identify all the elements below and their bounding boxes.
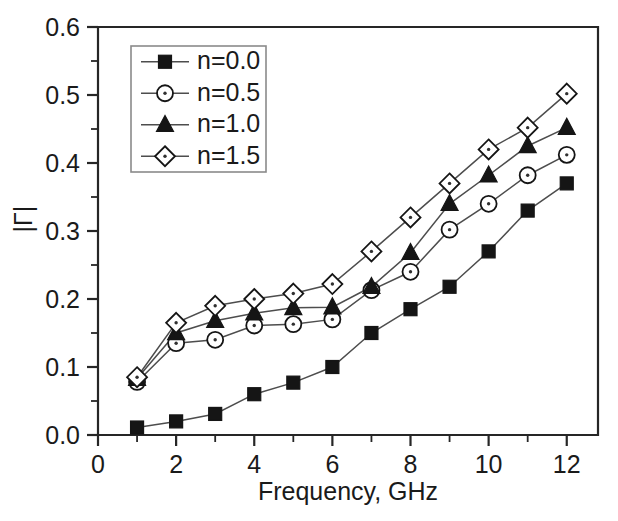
x-axis-title: Frequency, GHz xyxy=(258,477,438,505)
y-axis-ticks xyxy=(87,27,98,435)
y-axis-title: |Γ| xyxy=(9,206,37,233)
marker-filled-square xyxy=(560,177,573,190)
x-tick-label: 2 xyxy=(169,450,183,478)
x-axis-ticks xyxy=(98,435,567,446)
marker-open-diamond-center xyxy=(565,92,568,95)
x-tick-label: 8 xyxy=(404,450,418,478)
marker-open-circle-center xyxy=(174,342,177,345)
marker-open-circle-center xyxy=(409,270,412,273)
marker-filled-triangle xyxy=(324,298,341,314)
marker-filled-triangle xyxy=(519,137,536,153)
y-tick-label: 0.6 xyxy=(45,13,80,41)
marker-open-diamond-center xyxy=(213,304,216,307)
reflection-coefficient-line-chart: 0.00.10.20.30.40.50.6 024681012 Frequenc… xyxy=(0,0,618,521)
legend-label-1: n=0.5 xyxy=(197,78,260,106)
marker-open-diamond-center xyxy=(253,297,256,300)
marker-filled-square xyxy=(521,204,534,217)
marker-filled-square xyxy=(159,55,172,68)
legend-label-3: n=1.5 xyxy=(197,141,260,169)
marker-filled-triangle xyxy=(558,118,575,134)
marker-open-diamond-center xyxy=(163,155,166,158)
marker-open-circle-center xyxy=(487,202,490,205)
x-tick-label: 0 xyxy=(91,450,105,478)
marker-open-circle-center xyxy=(213,338,216,341)
marker-filled-square xyxy=(248,388,261,401)
y-tick-label: 0.4 xyxy=(45,149,80,177)
marker-open-circle-center xyxy=(526,174,529,177)
marker-open-diamond-center xyxy=(135,376,138,379)
marker-open-circle-center xyxy=(292,322,295,325)
x-tick-label: 4 xyxy=(247,450,261,478)
marker-open-circle-center xyxy=(565,153,568,156)
x-tick-label: 10 xyxy=(475,450,503,478)
chart-figure: 0.00.10.20.30.40.50.6 024681012 Frequenc… xyxy=(0,0,618,521)
marker-filled-square xyxy=(287,376,300,389)
marker-open-circle-center xyxy=(163,92,166,95)
marker-open-diamond-center xyxy=(331,282,334,285)
marker-filled-triangle xyxy=(441,195,458,211)
marker-filled-triangle xyxy=(480,166,497,182)
marker-open-diamond-center xyxy=(292,292,295,295)
marker-filled-square xyxy=(404,303,417,316)
marker-open-diamond-center xyxy=(448,182,451,185)
marker-open-diamond-center xyxy=(526,126,529,129)
y-tick-label: 0.3 xyxy=(45,217,80,245)
marker-open-diamond-center xyxy=(487,148,490,151)
marker-open-circle-center xyxy=(253,324,256,327)
marker-open-diamond-center xyxy=(174,321,177,324)
marker-filled-square xyxy=(482,245,495,258)
marker-filled-square xyxy=(443,280,456,293)
x-axis-tick-labels: 024681012 xyxy=(91,450,581,478)
y-tick-label: 0.2 xyxy=(45,285,80,313)
y-tick-label: 0.1 xyxy=(45,353,80,381)
x-tick-label: 12 xyxy=(553,450,581,478)
marker-open-circle-center xyxy=(448,228,451,231)
x-tick-label: 6 xyxy=(325,450,339,478)
marker-filled-square xyxy=(131,421,144,434)
marker-open-circle-center xyxy=(331,318,334,321)
marker-filled-square xyxy=(365,327,378,340)
marker-filled-square xyxy=(170,415,183,428)
marker-filled-square xyxy=(326,361,339,374)
y-tick-label: 0.5 xyxy=(45,81,80,109)
legend-label-0: n=0.0 xyxy=(197,46,260,74)
y-axis-tick-labels: 0.00.10.20.30.40.50.6 xyxy=(45,13,80,449)
legend-label-2: n=1.0 xyxy=(197,109,260,137)
marker-open-diamond-center xyxy=(409,216,412,219)
chart-legend: n=0.0n=0.5n=1.0n=1.5 xyxy=(131,46,266,172)
y-tick-label: 0.0 xyxy=(45,421,80,449)
marker-open-diamond-center xyxy=(370,250,373,253)
marker-filled-square xyxy=(209,407,222,420)
